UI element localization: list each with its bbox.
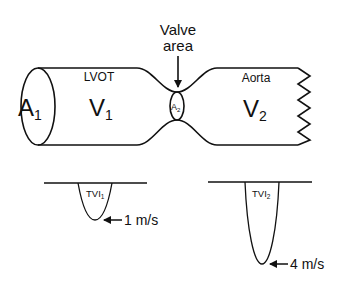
svg-text:area: area — [163, 37, 194, 54]
aorta-velocity-label: V2 — [243, 95, 267, 124]
lvot-label: LVOT — [84, 70, 115, 84]
continuity-equation-diagram: Valve area LVOT A1 V1 A2 Aorta V2 TVI1 1… — [0, 0, 341, 287]
svg-text:Valve: Valve — [160, 21, 196, 38]
tvi1-label: TVI1 — [86, 188, 105, 200]
valve-label-line2: area — [163, 37, 194, 54]
aorta-label: Aorta — [242, 71, 271, 85]
valve-area-callout: Valve area — [160, 21, 196, 87]
aorta-break-zigzag — [298, 68, 310, 145]
lvot-area-label: A1 — [18, 94, 42, 123]
tvi2-label: TVI2 — [252, 188, 271, 200]
lvot-velocity-label: V1 — [89, 94, 113, 123]
peak-velocity-1: 1 m/s — [124, 212, 158, 228]
valve-label-line1: Valve — [160, 21, 196, 38]
valve-area-label: A2 — [171, 102, 181, 113]
peak-velocity-2: 4 m/s — [290, 256, 324, 272]
